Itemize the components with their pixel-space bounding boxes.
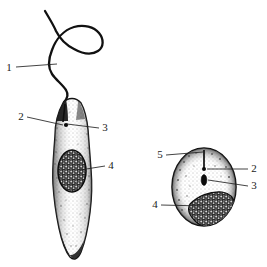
label-2-right: 2	[251, 162, 257, 174]
label-4-left: 4	[108, 159, 114, 171]
label-3-right: 3	[251, 179, 257, 191]
label-3-left: 3	[102, 121, 108, 133]
label-2-left: 2	[18, 110, 24, 122]
label-5-right: 5	[157, 148, 163, 160]
amastigote-kinetoplast	[201, 175, 207, 186]
kinetoplast	[64, 123, 68, 127]
background	[0, 0, 267, 267]
label-1: 1	[6, 61, 12, 73]
label-4-right: 4	[152, 198, 158, 210]
amastigote-flagellar-pocket	[202, 167, 206, 171]
protozoan-diagram: 1 2 3 4 5 2 3	[0, 0, 267, 267]
amastigote-cell	[172, 148, 236, 228]
diagram-canvas: 1 2 3 4 5 2 3	[0, 0, 267, 267]
